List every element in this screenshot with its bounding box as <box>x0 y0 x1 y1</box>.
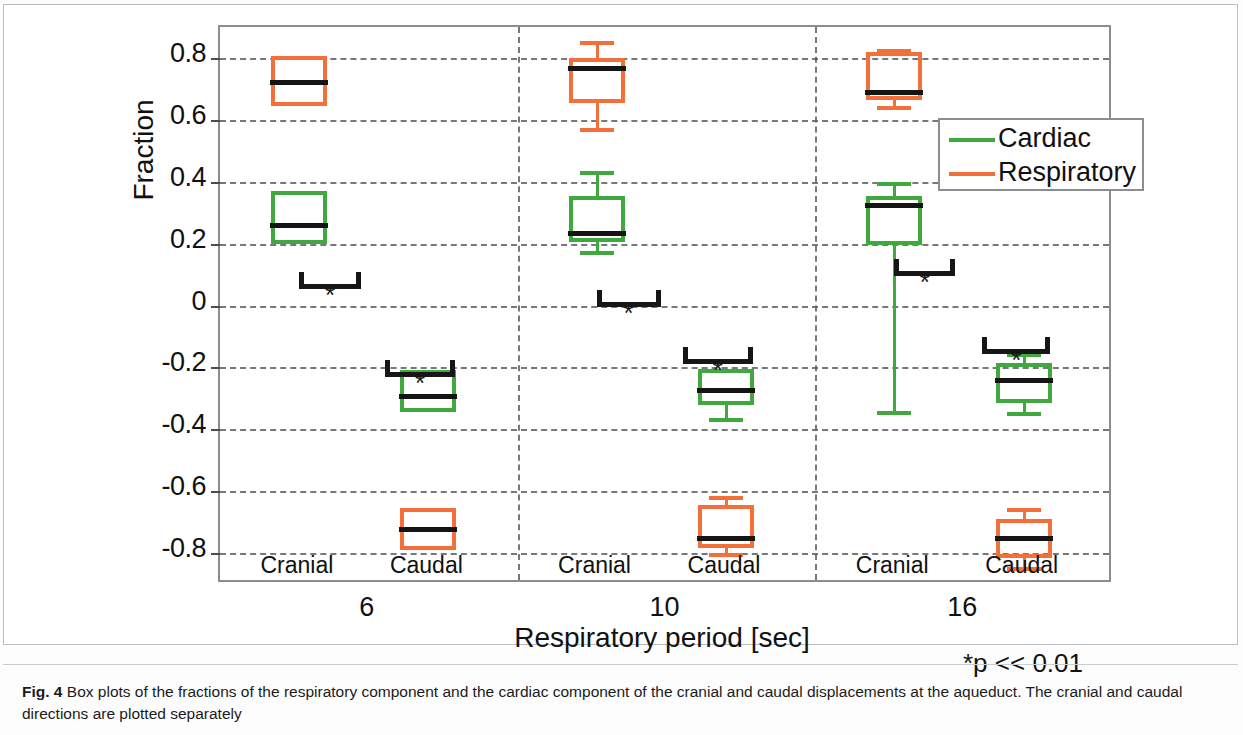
median-line <box>568 66 626 71</box>
median-line <box>697 388 755 393</box>
median-line <box>399 527 457 532</box>
significance-star: * <box>385 374 455 392</box>
whisker-cap-lower <box>877 106 911 110</box>
legend-label: Respiratory <box>998 157 1136 188</box>
bracket-tick-right <box>656 290 661 302</box>
bracket-tick-right <box>748 347 753 359</box>
bracket-tick-left <box>982 337 987 349</box>
significance-star: * <box>894 273 955 291</box>
x-direction-label: Cranial <box>520 552 670 579</box>
bracket-tick-left <box>597 290 602 302</box>
significance-star: * <box>299 286 362 304</box>
x-direction-label: Caudal <box>351 552 501 579</box>
median-line <box>568 231 626 236</box>
whisker-lower <box>725 405 728 419</box>
whisker-cap-upper <box>877 182 911 186</box>
median-line <box>270 80 328 85</box>
legend-label: Cardiac <box>998 123 1091 154</box>
box-iqr <box>569 58 625 103</box>
bracket-tick-left <box>683 347 688 359</box>
box-iqr <box>271 191 327 244</box>
caption-text: Box plots of the fractions of the respir… <box>22 683 1182 722</box>
x-direction-label: Cranial <box>222 552 372 579</box>
whisker-cap-lower <box>580 251 614 255</box>
bracket-tick-right <box>356 272 361 284</box>
x-group-label: 10 <box>605 592 725 623</box>
group-separator <box>518 27 520 580</box>
bracket-tick-left <box>299 272 304 284</box>
significance-bracket-cranial-6: * <box>299 272 362 306</box>
significance-bracket-cranial-10: * <box>597 290 661 324</box>
y-tick-label: -0.8 <box>88 533 206 564</box>
figure-caption: Fig. 4 Box plots of the fractions of the… <box>22 681 1222 725</box>
whisker-lower <box>596 242 599 251</box>
significance-star: * <box>982 351 1050 369</box>
median-line <box>995 536 1053 541</box>
group-separator <box>815 27 817 580</box>
y-tick-label: 0.2 <box>88 224 206 255</box>
figure-panel: Fraction 0.80.60.40.20-0.2-0.4-0.6-0.8 *… <box>0 0 1243 735</box>
whisker-cap-upper <box>709 496 743 500</box>
x-direction-label: Cranial <box>817 552 967 579</box>
y-tick-mark <box>211 429 220 431</box>
median-line <box>995 378 1053 383</box>
y-tick-mark <box>211 306 220 308</box>
legend-swatch-cardiac <box>949 138 995 142</box>
whisker-lower <box>596 103 599 128</box>
y-tick-label: -0.6 <box>88 471 206 502</box>
legend-swatch-respiratory <box>949 172 995 176</box>
whisker-cap-lower <box>1007 412 1041 416</box>
y-tick-mark <box>211 120 220 122</box>
box-iqr <box>698 505 754 548</box>
whisker-cap-upper <box>1007 508 1041 512</box>
y-tick-label: -0.4 <box>88 409 206 440</box>
y-tick-label: -0.2 <box>88 347 206 378</box>
bracket-tick-right <box>450 360 455 372</box>
legend-item-respiratory: Respiratory <box>940 158 1142 190</box>
significance-star: * <box>683 361 753 379</box>
significance-bracket-caudal-6: * <box>385 360 455 394</box>
gridline <box>220 244 1109 246</box>
y-tick-mark <box>211 367 220 369</box>
x-axis-title: Respiratory period [sec] <box>392 622 932 654</box>
y-tick-label: 0.6 <box>88 100 206 131</box>
legend: CardiacRespiratory <box>938 118 1144 191</box>
y-tick-mark <box>211 491 220 493</box>
y-tick-label: 0.8 <box>88 38 206 69</box>
figure-label: Fig. 4 <box>22 683 62 700</box>
whisker-lower <box>1023 403 1026 412</box>
y-tick-label: 0.4 <box>88 162 206 193</box>
y-tick-mark <box>211 244 220 246</box>
significance-bracket-caudal-10: * <box>683 347 753 381</box>
significance-bracket-cranial-16: * <box>894 259 955 293</box>
bracket-tick-left <box>385 360 390 372</box>
y-tick-mark <box>211 58 220 60</box>
median-line <box>865 203 923 208</box>
y-axis-title: Fraction <box>128 50 160 250</box>
median-line <box>270 223 328 228</box>
bracket-tick-left <box>894 259 899 271</box>
bracket-tick-right <box>950 259 955 271</box>
median-line <box>697 536 755 541</box>
x-group-label: 16 <box>902 592 1022 623</box>
y-tick-mark <box>211 553 220 555</box>
significance-star: * <box>597 304 661 322</box>
median-line <box>399 394 457 399</box>
plot-area: ****** <box>218 25 1111 582</box>
gridline <box>220 429 1109 431</box>
x-direction-label: Caudal <box>649 552 799 579</box>
whisker-cap-lower <box>709 418 743 422</box>
x-direction-label: Caudal <box>947 552 1097 579</box>
gridline <box>220 58 1109 60</box>
whisker-cap-lower <box>580 128 614 132</box>
gridline <box>220 491 1109 493</box>
whisker-cap-upper <box>580 41 614 45</box>
bracket-tick-right <box>1045 337 1050 349</box>
median-line <box>865 90 923 95</box>
gridline <box>220 367 1109 369</box>
whisker-cap-upper <box>580 171 614 175</box>
legend-item-cardiac: Cardiac <box>940 124 1142 156</box>
significance-bracket-caudal-16: * <box>982 337 1050 371</box>
y-tick-mark <box>211 182 220 184</box>
x-group-label: 6 <box>307 592 427 623</box>
